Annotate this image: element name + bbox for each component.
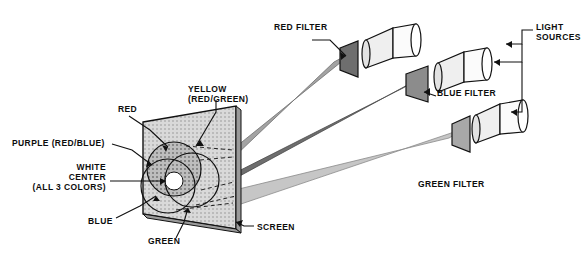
label-green-filter: GREEN FILTER — [418, 179, 485, 189]
label-light-sources: LIGHT SOURCES — [536, 22, 581, 42]
label-red-filter: RED FILTER — [274, 22, 327, 32]
label-blue-filter: BLUE FILTER — [437, 88, 496, 98]
blue-filter-plate — [406, 66, 428, 102]
label-blue: BLUE — [88, 216, 113, 226]
label-green: GREEN — [148, 236, 180, 246]
label-screen: SCREEN — [257, 222, 295, 232]
blue-lamp — [434, 48, 492, 92]
label-purple-red-blue: PURPLE (RED/BLUE) — [12, 138, 105, 148]
green-lamp — [472, 100, 528, 143]
label-red: RED — [118, 104, 137, 114]
label-white-center: WHITE CENTER (ALL 3 COLORS) — [20, 162, 106, 192]
label-yellow-red-green: YELLOW (RED/GREEN) — [188, 84, 249, 104]
red-lamp — [362, 24, 421, 68]
diagram-canvas: RED FILTER LIGHT SOURCES BLUE FILTER YEL… — [0, 0, 586, 267]
red-filter-plate — [340, 41, 358, 77]
green-filter-plate — [452, 116, 470, 152]
